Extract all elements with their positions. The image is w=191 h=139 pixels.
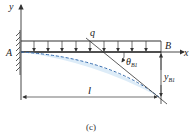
load-arrows <box>34 41 146 51</box>
y-axis-label: y <box>8 1 14 12</box>
tangent-line <box>86 38 167 104</box>
fixed-support <box>16 30 20 75</box>
x-axis-label: x <box>183 47 189 58</box>
cantilever-beam-diagram: y x l A B q θB1 yB1 (c) <box>0 0 191 139</box>
theta-label: θB1 <box>126 56 138 68</box>
deflection-label: yB1 <box>163 71 175 83</box>
figure-caption: (c) <box>86 122 96 132</box>
point-a-label: A <box>5 47 13 58</box>
length-label: l <box>88 84 91 96</box>
theta-arc <box>122 52 124 62</box>
load-label: q <box>90 27 95 38</box>
point-b-label: B <box>165 40 171 51</box>
